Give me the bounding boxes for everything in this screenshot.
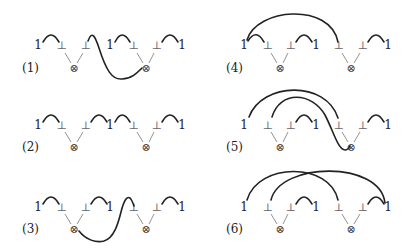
tensor-symbol: ⊗ <box>69 62 78 75</box>
bottom-symbol: ⊥ <box>358 39 368 52</box>
axiom-link-arc <box>248 35 264 42</box>
bottom-symbol: ⊥ <box>129 201 139 214</box>
bottom-symbol: ⊥ <box>152 39 162 52</box>
bottom-symbol: ⊥ <box>263 201 273 214</box>
one-symbol: 1 <box>178 38 186 52</box>
bottom-symbol: ⊥ <box>286 201 296 214</box>
axiom-link-arc <box>296 35 312 42</box>
one-symbol: 1 <box>34 38 42 52</box>
one-symbol: 1 <box>312 38 320 52</box>
bottom-symbol: ⊥ <box>81 119 91 132</box>
tensor-symbol: ⊗ <box>346 141 355 154</box>
axiom-link-arc <box>368 115 384 122</box>
bottom-symbol: ⊥ <box>334 201 344 214</box>
axiom-link-arc <box>247 172 338 201</box>
panel-label: (2) <box>22 140 39 154</box>
axiom-link-arc <box>368 197 384 204</box>
tensor-symbol: ⊗ <box>346 62 355 75</box>
axiom-link-arc <box>162 115 178 122</box>
bottom-symbol: ⊥ <box>334 119 344 132</box>
axiom-link-arc <box>162 35 178 42</box>
panel-label: (3) <box>22 222 39 236</box>
bottom-symbol: ⊥ <box>358 201 368 214</box>
one-symbol: 1 <box>178 200 186 214</box>
one-symbol: 1 <box>178 118 186 132</box>
bottom-symbol: ⊥ <box>286 39 296 52</box>
bottom-symbol: ⊥ <box>334 39 344 52</box>
axiom-link-arc <box>296 115 312 122</box>
tensor-symbol: ⊗ <box>275 141 284 154</box>
bottom-symbol: ⊥ <box>129 39 139 52</box>
axiom-link-arc <box>115 35 130 42</box>
axiom-link-arc <box>296 197 312 204</box>
tensor-symbol: ⊗ <box>141 62 150 75</box>
panels: (1)1⊥⊥1⊥⊥1⊗⊗(2)1⊥⊥1⊥⊥1⊗⊗(3)1⊥⊥1⊥⊥1⊗⊗(4)1… <box>22 14 392 242</box>
axiom-link-arc <box>115 115 130 122</box>
panel-6: (6)1⊥⊥1⊥⊥1⊗⊗ <box>226 171 392 236</box>
bottom-symbol: ⊥ <box>358 119 368 132</box>
tensor-symbol: ⊗ <box>141 141 150 154</box>
tensor-symbol: ⊗ <box>275 62 284 75</box>
axiom-link-arc <box>91 197 107 204</box>
axiom-link-arc <box>162 197 178 204</box>
one-symbol: 1 <box>106 38 114 52</box>
one-symbol: 1 <box>384 38 392 52</box>
panel-label: (5) <box>226 140 243 154</box>
panel-label: (6) <box>226 222 243 236</box>
tensor-symbol: ⊗ <box>346 223 355 236</box>
panel-4: (4)1⊥⊥1⊥⊥1⊗⊗ <box>226 14 392 75</box>
panel-2: (2)1⊥⊥1⊥⊥1⊗⊗ <box>22 115 186 154</box>
one-symbol: 1 <box>240 200 248 214</box>
tensor-symbol: ⊗ <box>69 223 78 236</box>
proof-net-diagram: (1)1⊥⊥1⊥⊥1⊗⊗(2)1⊥⊥1⊥⊥1⊗⊗(3)1⊥⊥1⊥⊥1⊗⊗(4)1… <box>0 0 406 250</box>
bottom-symbol: ⊥ <box>152 119 162 132</box>
bottom-symbol: ⊥ <box>81 39 91 52</box>
one-symbol: 1 <box>312 200 320 214</box>
panel-5: (5)1⊥⊥1⊥⊥1⊗⊗ <box>226 90 392 154</box>
bottom-symbol: ⊥ <box>152 201 162 214</box>
one-symbol: 1 <box>34 118 42 132</box>
one-symbol: 1 <box>312 118 320 132</box>
axiom-link-arc <box>91 115 107 122</box>
axiom-link-arc <box>271 171 385 203</box>
one-symbol: 1 <box>106 118 114 132</box>
bottom-symbol: ⊥ <box>286 119 296 132</box>
one-symbol: 1 <box>384 118 392 132</box>
tensor-symbol: ⊗ <box>141 223 150 236</box>
one-symbol: 1 <box>106 200 114 214</box>
bottom-symbol: ⊥ <box>129 119 139 132</box>
panel-label: (1) <box>22 61 39 75</box>
axiom-link-arc <box>368 35 384 42</box>
tensor-symbol: ⊗ <box>69 141 78 154</box>
bottom-symbol: ⊥ <box>263 39 273 52</box>
panel-3: (3)1⊥⊥1⊥⊥1⊗⊗ <box>22 197 186 242</box>
tensor-symbol: ⊗ <box>275 223 284 236</box>
one-symbol: 1 <box>240 118 248 132</box>
bottom-symbol: ⊥ <box>263 119 273 132</box>
panel-1: (1)1⊥⊥1⊥⊥1⊗⊗ <box>22 35 186 79</box>
panel-label: (4) <box>226 61 243 75</box>
one-symbol: 1 <box>34 200 42 214</box>
bottom-symbol: ⊥ <box>81 201 91 214</box>
